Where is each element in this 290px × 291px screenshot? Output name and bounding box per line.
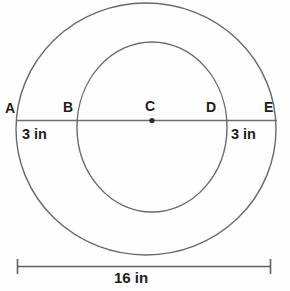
point-label-d: D — [206, 100, 216, 114]
geometry-diagram: A B C D E 3 in 3 in 16 in — [0, 0, 290, 291]
measurement-label-ae: 16 in — [114, 270, 148, 285]
measurement-label-de: 3 in — [231, 127, 256, 142]
point-label-c: C — [145, 99, 155, 113]
point-label-a: A — [5, 101, 15, 115]
center-point-dot — [149, 118, 154, 123]
measurement-label-ab: 3 in — [22, 127, 47, 142]
figure-canvas — [0, 0, 290, 291]
inner-circle — [77, 42, 227, 212]
point-label-b: B — [63, 100, 73, 114]
point-label-e: E — [264, 100, 273, 114]
